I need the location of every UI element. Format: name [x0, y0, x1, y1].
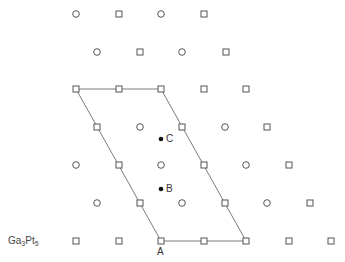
circle-atom-icon	[137, 124, 144, 131]
square-atom-icon	[243, 86, 249, 92]
square-atom-icon	[201, 86, 207, 92]
circle-atom-icon	[222, 124, 229, 131]
circle-atom-icon	[243, 162, 250, 169]
circle-atom-icon	[73, 11, 80, 18]
square-atom-icon	[307, 200, 313, 206]
square-atom-icon	[201, 238, 207, 244]
point-label-c: C	[166, 134, 173, 144]
circle-atom-icon	[73, 162, 80, 169]
square-atom-icon	[158, 238, 164, 244]
square-atom-icon	[286, 238, 292, 244]
square-atom-icon	[286, 162, 292, 168]
square-atom-icon	[243, 238, 249, 244]
circle-atom-icon	[94, 49, 101, 56]
circle-atom-icon	[94, 200, 101, 207]
compound-label: Ga3Pt5	[8, 235, 39, 247]
circle-atom-icon	[158, 162, 165, 169]
square-atom-icon	[73, 238, 79, 244]
square-atom-icon	[264, 124, 270, 130]
point-c-dot-icon	[159, 137, 164, 142]
square-atom-icon	[73, 86, 79, 92]
crystal-structure-diagram	[0, 0, 345, 262]
square-atom-icon	[158, 86, 164, 92]
square-atom-icon	[116, 162, 122, 168]
circle-atom-icon	[179, 49, 186, 56]
square-atom-icon	[328, 238, 334, 244]
atom-lattice	[73, 11, 334, 244]
square-atom-icon	[116, 238, 122, 244]
circle-atom-icon	[179, 200, 186, 207]
square-atom-icon	[116, 11, 122, 17]
square-atom-icon	[137, 200, 143, 206]
point-label-a: A	[157, 247, 164, 257]
circle-atom-icon	[264, 200, 271, 207]
circle-atom-icon	[158, 11, 165, 18]
square-atom-icon	[137, 49, 143, 55]
square-atom-icon	[116, 86, 122, 92]
square-atom-icon	[201, 162, 207, 168]
square-atom-icon	[201, 11, 207, 17]
point-label-b: B	[166, 184, 173, 194]
square-atom-icon	[179, 124, 185, 130]
square-atom-icon	[222, 200, 228, 206]
point-b-dot-icon	[159, 187, 164, 192]
square-atom-icon	[223, 49, 229, 55]
square-atom-icon	[94, 124, 100, 130]
